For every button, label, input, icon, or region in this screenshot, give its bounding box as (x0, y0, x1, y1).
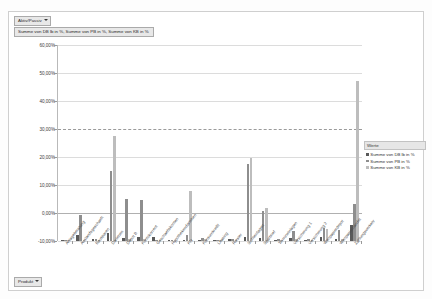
x-axis-tick (255, 241, 256, 244)
y-axis-tick (54, 73, 57, 74)
bar-group[interactable] (149, 45, 164, 241)
x-axis-tick (163, 241, 164, 244)
y-axis-tick-label: 40,00% (17, 99, 55, 104)
bar-group[interactable] (286, 45, 301, 241)
bar-group[interactable] (301, 45, 316, 241)
y-axis-tick-label: 20,00% (17, 155, 55, 160)
bar-group[interactable] (347, 45, 362, 241)
x-axis-tick (179, 241, 180, 244)
bar-group[interactable] (316, 45, 331, 241)
x-axis-tick (270, 241, 271, 244)
legend-swatch-icon (366, 166, 369, 169)
bar-group[interactable] (195, 45, 210, 241)
bar-group[interactable] (73, 45, 88, 241)
bar[interactable] (113, 136, 116, 241)
x-axis-tick (224, 241, 225, 244)
chevron-down-icon (44, 19, 48, 21)
bar-group[interactable] (240, 45, 255, 241)
x-axis-tick (148, 241, 149, 244)
y-axis-tick (54, 129, 57, 130)
y-axis-tick-label: 30,00% (17, 127, 55, 132)
x-axis-tick (239, 241, 240, 244)
legend-item[interactable]: Summe von DB lb in % (366, 152, 426, 157)
x-axis-tick (209, 241, 210, 244)
plot-area (57, 45, 362, 241)
bar-group[interactable] (164, 45, 179, 241)
chart-frame: Aktiv/Passiv Summe von DB lb in %, Summe… (8, 11, 424, 291)
gridline (58, 241, 362, 242)
bar-group[interactable] (134, 45, 149, 241)
pivot-chart-page: Aktiv/Passiv Summe von DB lb in %, Summe… (0, 0, 432, 299)
bar[interactable] (250, 158, 253, 241)
y-axis-tick (54, 157, 57, 158)
y-axis-tick-label: 0,00% (17, 211, 55, 216)
filter-aktiv-label: Aktiv/Passiv (18, 18, 42, 23)
x-axis-tick (300, 241, 301, 244)
legend-item-label: Summe von PB in % (370, 159, 409, 164)
bar-group[interactable] (332, 45, 347, 241)
bar[interactable] (125, 199, 128, 241)
x-axis-tick (285, 241, 286, 244)
bar-group[interactable] (104, 45, 119, 241)
x-axis-tick (133, 241, 134, 244)
filter-produkt-label: Produkt (18, 279, 33, 284)
x-axis-tick-label: Kfz (187, 238, 194, 245)
series-field-label: Summe von DB lb in %, Summe von PB in %,… (18, 29, 149, 34)
y-axis-tick (54, 101, 57, 102)
legend-swatch-icon (366, 153, 369, 156)
bar-group[interactable] (225, 45, 240, 241)
bar-group[interactable] (88, 45, 103, 241)
bar-group[interactable] (58, 45, 73, 241)
x-axis-tick (118, 241, 119, 244)
x-axis-tick (103, 241, 104, 244)
y-axis-tick-label: 60,00% (17, 43, 55, 48)
x-axis-tick (315, 241, 316, 244)
filter-button-produkt[interactable]: Produkt (14, 277, 42, 287)
legend-swatch-icon (366, 160, 369, 163)
legend-items: Summe von DB lb in %Summe von PB in %Sum… (364, 152, 426, 170)
bar-group[interactable] (210, 45, 225, 241)
filter-button-aktiv-passiv[interactable]: Aktiv/Passiv (14, 16, 51, 26)
x-axis-tick (194, 241, 195, 244)
x-axis-tick (361, 241, 362, 244)
y-axis-tick (54, 185, 57, 186)
y-axis-tick-label: 50,00% (17, 71, 55, 76)
legend-item-label: Summe von KB in % (370, 165, 409, 170)
y-axis-tick-label: -10,00% (17, 239, 55, 244)
chevron-down-icon (35, 280, 39, 282)
x-axis-tick (72, 241, 73, 244)
x-axis-tick (87, 241, 88, 244)
legend: Werte Summe von DB lb in %Summe von PB i… (364, 141, 426, 172)
legend-item-label: Summe von DB lb in % (370, 152, 414, 157)
bar-group[interactable] (119, 45, 134, 241)
y-axis-tick-label: 10,00% (17, 183, 55, 188)
bar-group[interactable] (271, 45, 286, 241)
bar-group[interactable] (256, 45, 271, 241)
y-axis-tick (54, 241, 57, 242)
y-axis-tick (54, 45, 57, 46)
x-axis-tick (331, 241, 332, 244)
y-axis-tick (54, 213, 57, 214)
legend-item[interactable]: Summe von PB in % (366, 159, 426, 164)
x-axis-tick (346, 241, 347, 244)
bar[interactable] (140, 200, 143, 241)
series-field-button[interactable]: Summe von DB lb in %, Summe von PB in %,… (14, 27, 154, 37)
legend-item[interactable]: Summe von KB in % (366, 165, 426, 170)
legend-title: Werte (364, 141, 426, 150)
